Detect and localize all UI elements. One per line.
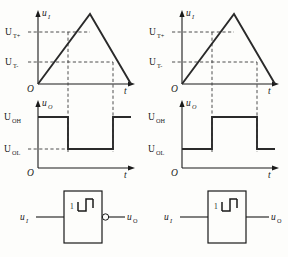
left-input-plot: u I t O U T+ U T- <box>5 8 135 152</box>
left-output-x-arrow-icon <box>128 165 135 170</box>
left-output-tick-uoh-sub: OH <box>12 117 21 124</box>
right-input-waveform <box>182 14 275 84</box>
right-input-x-label: t <box>268 86 271 96</box>
right-gate-input-label-sub: I <box>169 217 173 224</box>
right-output-tick-uoh: U <box>148 112 155 122</box>
figure-schmitt-trigger-waveforms: u I t O U T+ U T- u O t O U OH U OL <box>0 0 288 257</box>
right-input-tick-ut-minus-sub: T- <box>157 62 162 69</box>
left-input-tick-ut-minus-sub: T- <box>13 62 18 69</box>
left-output-tick-uol: U <box>4 144 11 154</box>
left-output-x-label: t <box>124 170 127 180</box>
right-gate-output-label: u <box>271 212 276 222</box>
hysteresis-icon <box>222 199 237 211</box>
right-input-tick-ut-minus: U <box>149 57 156 67</box>
left-input-waveform <box>38 14 131 84</box>
left-input-x-label: t <box>124 86 127 96</box>
left-gate-output-label: u <box>127 212 132 222</box>
left-gate-input-label: u <box>20 212 25 222</box>
right-gate-symbol: 1 u I u O <box>164 191 282 243</box>
right-gate-number: 1 <box>214 202 218 211</box>
right-input-y-label-sub: I <box>191 13 195 20</box>
left-gate-input-label-sub: I <box>25 217 29 224</box>
left-output-plot: u O t O U OH U OL <box>4 98 135 180</box>
right-input-y-arrow-icon <box>179 10 184 17</box>
right-output-y-label-sub: O <box>192 103 197 110</box>
left-input-y-arrow-icon <box>35 10 40 17</box>
left-gate-body <box>64 191 102 243</box>
left-output-tick-uol-sub: OL <box>12 149 20 156</box>
right-output-y-arrow-icon <box>179 100 184 107</box>
left-input-y-label: u <box>42 8 47 18</box>
right-input-y-label: u <box>186 8 191 18</box>
right-output-tick-uol-sub: OL <box>156 149 164 156</box>
right-gate-output-label-sub: O <box>277 217 282 224</box>
left-output-waveform <box>38 117 131 149</box>
right-output-waveform <box>182 117 275 149</box>
left-gate-output-label-sub: O <box>133 217 138 224</box>
right-output-x-arrow-icon <box>272 165 279 170</box>
left-gate-inverting-bubble-icon <box>102 214 108 220</box>
left-gate-number: 1 <box>70 202 74 211</box>
right-output-plot: u O t O U OH U OL <box>148 98 279 180</box>
right-output-x-label: t <box>268 170 271 180</box>
left-input-tick-ut-plus-sub: T+ <box>13 32 21 39</box>
right-output-origin-label: O <box>171 168 178 178</box>
left-output-y-arrow-icon <box>35 100 40 107</box>
right-input-tick-ut-plus: U <box>149 27 156 37</box>
left-input-y-label-sub: I <box>47 13 51 20</box>
right-output-tick-uoh-sub: OH <box>156 117 165 124</box>
right-output-y-label: u <box>186 98 191 108</box>
left-output-tick-uoh: U <box>4 112 11 122</box>
right-gate-input-label: u <box>164 212 169 222</box>
left-input-tick-ut-plus: U <box>5 27 12 37</box>
right-output-tick-uol: U <box>148 144 155 154</box>
left-output-y-label: u <box>42 98 47 108</box>
left-input-tick-ut-minus: U <box>5 57 12 67</box>
right-input-tick-ut-plus-sub: T+ <box>157 32 165 39</box>
hysteresis-icon <box>78 199 93 211</box>
left-gate-symbol: 1 u I u O <box>20 191 138 243</box>
right-input-origin-label: O <box>171 84 178 94</box>
figure-caption <box>0 249 288 257</box>
left-output-y-label-sub: O <box>48 103 53 110</box>
left-output-origin-label: O <box>27 168 34 178</box>
right-gate-body <box>208 191 246 243</box>
left-input-origin-label: O <box>27 84 34 94</box>
right-input-plot: u I t O U T+ U T- <box>149 8 279 152</box>
